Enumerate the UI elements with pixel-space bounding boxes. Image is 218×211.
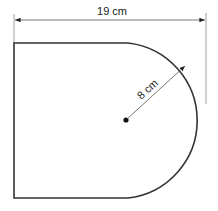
shape-outline (14, 43, 197, 198)
diagram-canvas: 19 cm 8 cm (0, 0, 218, 211)
width-label: 19 cm (97, 5, 127, 17)
radius-label: 8 cm (134, 77, 160, 102)
